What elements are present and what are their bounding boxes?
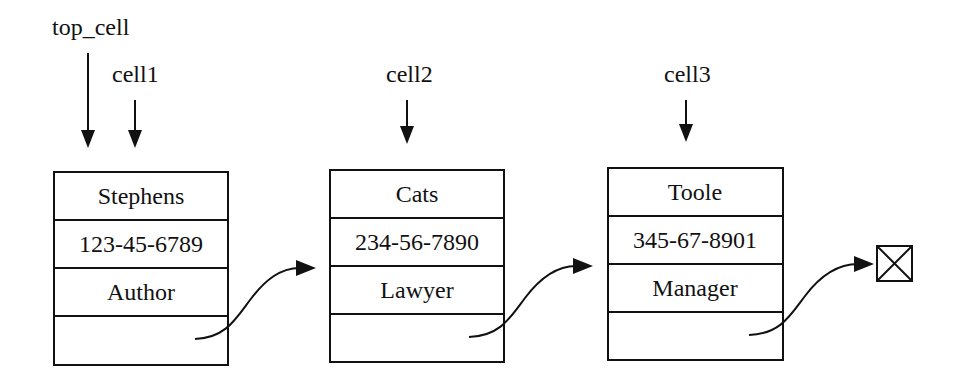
cell3-ssn: 345-67-8901: [633, 227, 757, 253]
cell1-label: cell1: [112, 61, 159, 87]
cell3-name: Toole: [668, 179, 722, 205]
cell2-ssn: 234-56-7890: [355, 229, 479, 255]
cell3-node: Toole 345-67-8901 Manager: [608, 168, 783, 360]
cell2-node: Cats 234-56-7890 Lawyer: [330, 170, 504, 362]
cell1-title: Author: [107, 279, 175, 305]
cell1-name: Stephens: [98, 183, 185, 209]
top-cell-label: top_cell: [52, 14, 130, 40]
cell3-title: Manager: [652, 275, 737, 301]
cell2-title: Lawyer: [380, 277, 453, 303]
cell2-label: cell2: [386, 61, 433, 87]
crossed-box-icon: [877, 246, 912, 281]
cell2-name: Cats: [396, 181, 439, 207]
cell2-arrow-icon: [400, 100, 414, 144]
top-cell-arrow-icon: [81, 53, 95, 148]
cell1-ssn: 123-45-6789: [79, 231, 203, 257]
cell1-arrow-icon: [128, 100, 142, 148]
linked-list-diagram: top_cell cell1 cell2 cell3 Stephens 123-…: [0, 0, 955, 386]
cell3-label: cell3: [664, 61, 711, 87]
cell3-arrow-icon: [679, 100, 693, 142]
cell1-node: Stephens 123-45-6789 Author: [54, 172, 228, 365]
